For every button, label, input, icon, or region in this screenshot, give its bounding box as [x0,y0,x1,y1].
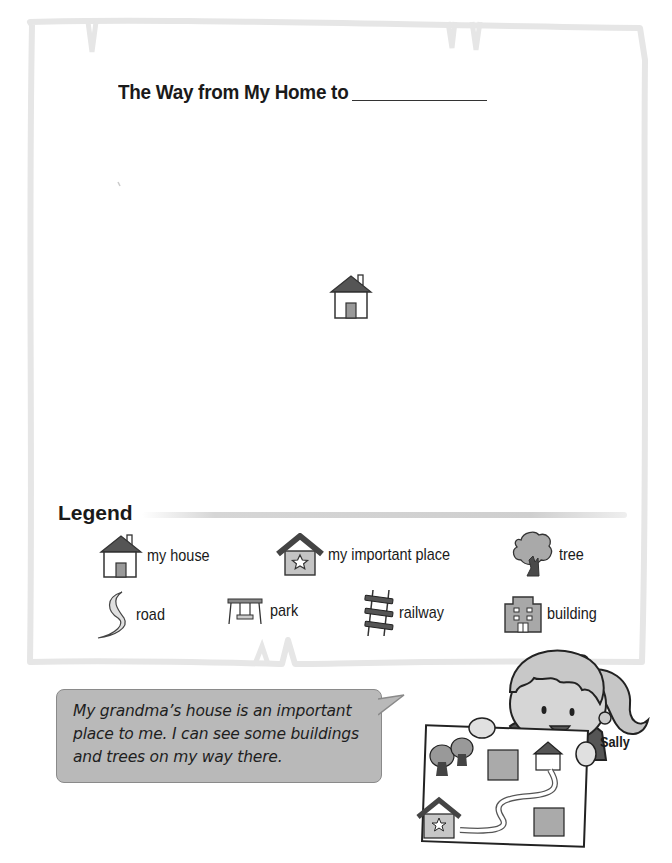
destination-blank[interactable] [352,100,487,101]
legend-label: park [270,601,298,621]
speech-line: and trees on my way there. [73,746,383,769]
road-icon [94,590,132,640]
girl-with-map-illustration [410,642,670,863]
legend-label: my important place [328,545,450,565]
legend-label: building [547,604,597,624]
legend-item-my-house: my house [99,533,221,579]
speech-bubble-tail [378,693,408,723]
title-text: The Way from My Home to [118,80,348,103]
speech-bubble: My grandma’s house is an important place… [56,689,382,783]
legend-label: tree [559,545,584,565]
legend-item-important-place: my important place [276,533,472,577]
legend-item-building: building [503,594,606,634]
legend-item-park: park [226,597,303,625]
railway-icon [363,588,395,638]
legend-item-railway: railway [363,588,452,638]
legend-label: my house [147,546,210,566]
legend-divider [142,512,627,518]
park-swing-icon [226,597,266,625]
speech-line: place to me. I can see some buildings [73,723,383,746]
legend-item-road: road [94,590,170,640]
legend-item-tree: tree [511,530,588,580]
legend-heading: Legend [58,501,133,525]
speech-bubble-text: My grandma’s house is an important place… [73,700,383,769]
house-icon [99,533,143,579]
tree-icon [511,530,555,580]
speech-line: My grandma’s house is an important [73,700,383,723]
worksheet-title: The Way from My Home to [118,80,487,104]
important-place-icon [276,533,324,577]
character-name-label: Sally [600,733,630,750]
house-icon [329,272,373,320]
legend-label: railway [399,603,444,623]
legend-label: road [136,605,165,625]
building-icon [503,594,543,634]
